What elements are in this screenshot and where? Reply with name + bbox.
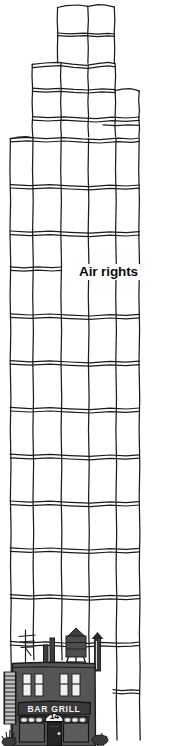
window-upper-2	[35, 674, 43, 696]
door-knob	[58, 732, 61, 735]
shrub-left-mass	[2, 738, 16, 746]
mid-col-2	[61, 117, 62, 137]
scallop	[72, 718, 79, 723]
upper-col-2	[88, 65, 89, 117]
upper-left-column	[32, 64, 33, 117]
storefront: 14	[19, 711, 89, 746]
air-rights-annotation: Air rights	[77, 264, 140, 280]
antenna-arm-3	[21, 647, 33, 648]
scallop	[36, 718, 43, 723]
pipe-short	[44, 645, 49, 664]
mid-col-4	[115, 117, 116, 137]
pipe-tall	[50, 638, 55, 664]
mid-col-1	[32, 117, 33, 137]
shaft-band-691b	[113, 693, 140, 694]
air-rights-illustration: BAR GRILL	[0, 0, 169, 746]
awning-left-scallops	[21, 718, 43, 723]
window-upper-3	[60, 674, 68, 696]
window-upper-4	[72, 674, 80, 696]
shrub-right-mass	[92, 735, 108, 745]
mid-floor-band-c	[103, 125, 139, 126]
address-number: 14	[50, 711, 60, 721]
awning-right-scallops	[64, 718, 86, 723]
scallop	[79, 718, 86, 723]
crown-right-column	[114, 7, 115, 63]
crown-mid-column	[88, 6, 89, 63]
mid-col-3	[88, 117, 89, 137]
shop-window-right	[64, 723, 89, 742]
scene-drawing: BAR GRILL	[0, 0, 169, 746]
shop-window-left	[20, 723, 45, 742]
window-upper-1	[23, 674, 31, 696]
fire-escape-ladder	[4, 672, 16, 724]
scallop	[28, 718, 35, 723]
scallop	[21, 718, 28, 723]
shaft-band-691	[113, 690, 140, 691]
scallop	[64, 718, 71, 723]
water-tower-tank	[66, 636, 86, 657]
upper-col-1	[61, 63, 62, 118]
mid-right-column	[139, 91, 140, 137]
